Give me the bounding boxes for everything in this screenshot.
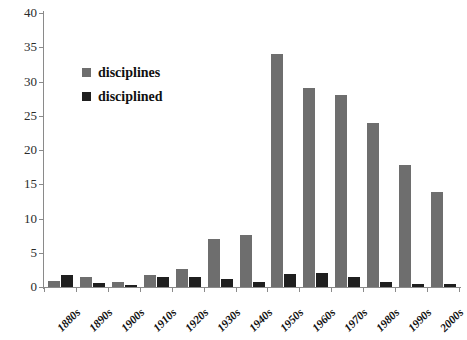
- x-tick-mark: [395, 287, 396, 292]
- bar: [431, 192, 443, 287]
- x-tick-label: 1960s: [310, 306, 338, 334]
- bar-chart: 0510152025303540 1880s1890s1900s1910s192…: [0, 0, 467, 340]
- x-tick-label: 1980s: [374, 306, 402, 334]
- y-tick-mark: [39, 253, 44, 254]
- bar: [208, 239, 220, 287]
- x-tick-mark: [172, 287, 173, 292]
- legend-item: disciplined: [82, 87, 163, 106]
- bar: [112, 282, 124, 287]
- bar-group: [111, 13, 139, 287]
- bar-group: [302, 13, 330, 287]
- bar: [221, 279, 233, 287]
- bar: [253, 282, 265, 287]
- bar: [240, 235, 252, 287]
- bar: [48, 281, 60, 287]
- x-axis-line: [43, 287, 461, 288]
- x-tick-label: 1890s: [86, 306, 114, 334]
- y-tick-mark: [39, 150, 44, 151]
- bar-group: [175, 13, 203, 287]
- bar: [335, 95, 347, 287]
- y-tick-mark: [39, 13, 44, 14]
- chart-legend: disciplinesdisciplined: [82, 63, 163, 111]
- bar: [303, 88, 315, 287]
- bar-group: [47, 13, 75, 287]
- bar: [93, 283, 105, 287]
- bar: [144, 275, 156, 287]
- y-tick-label: 10: [24, 211, 37, 227]
- y-tick-mark: [39, 219, 44, 220]
- x-tick-mark: [427, 287, 428, 292]
- x-tick-label: 1900s: [118, 306, 146, 334]
- y-tick-label: 25: [24, 108, 37, 124]
- x-tick-mark: [331, 287, 332, 292]
- bar: [316, 273, 328, 287]
- bar: [61, 275, 73, 287]
- x-tick-mark: [204, 287, 205, 292]
- x-tick-label: 1970s: [342, 306, 370, 334]
- legend-item: disciplines: [82, 63, 163, 82]
- y-tick-label: 40: [24, 5, 37, 21]
- bar-group: [143, 13, 171, 287]
- bar: [284, 274, 296, 287]
- bar: [444, 284, 456, 287]
- legend-swatch-icon: [82, 92, 91, 101]
- y-tick-mark: [39, 184, 44, 185]
- bar: [412, 284, 424, 287]
- x-tick-label: 2000s: [438, 306, 466, 334]
- x-tick-mark: [236, 287, 237, 292]
- bar: [367, 123, 379, 287]
- bar: [271, 54, 283, 287]
- bar-group: [270, 13, 298, 287]
- x-tick-mark: [267, 287, 268, 292]
- y-tick-mark: [39, 47, 44, 48]
- bar: [399, 165, 411, 287]
- x-tick-label: 1940s: [246, 306, 274, 334]
- y-tick-label: 5: [31, 245, 38, 261]
- bar: [380, 282, 392, 287]
- x-tick-label: 1880s: [55, 306, 83, 334]
- legend-swatch-icon: [82, 68, 91, 77]
- bar: [157, 277, 169, 287]
- bar: [80, 277, 92, 287]
- bar: [176, 269, 188, 287]
- y-tick-label: 0: [31, 279, 38, 295]
- bar: [125, 285, 137, 287]
- y-tick-label: 35: [24, 39, 37, 55]
- x-tick-mark: [459, 287, 460, 292]
- x-tick-label: 1990s: [406, 306, 434, 334]
- plot-area: 0510152025303540 1880s1890s1900s1910s192…: [44, 13, 459, 287]
- y-tick-mark: [39, 116, 44, 117]
- x-tick-label: 1920s: [182, 306, 210, 334]
- x-tick-mark: [44, 287, 45, 292]
- x-tick-mark: [363, 287, 364, 292]
- x-tick-label: 1950s: [278, 306, 306, 334]
- bar-group: [334, 13, 362, 287]
- x-tick-label: 1910s: [150, 306, 178, 334]
- y-tick-label: 20: [24, 142, 37, 158]
- y-tick-label: 15: [24, 176, 37, 192]
- y-tick-mark: [39, 82, 44, 83]
- bar-group: [239, 13, 267, 287]
- bar: [348, 277, 360, 287]
- bar-group: [79, 13, 107, 287]
- bar: [189, 277, 201, 287]
- bar-group: [366, 13, 394, 287]
- legend-label: disciplined: [98, 89, 163, 105]
- bar-group: [207, 13, 235, 287]
- legend-label: disciplines: [98, 65, 160, 81]
- x-tick-mark: [140, 287, 141, 292]
- bar-group: [430, 13, 458, 287]
- x-tick-mark: [76, 287, 77, 292]
- x-tick-mark: [299, 287, 300, 292]
- y-tick-label: 30: [24, 74, 37, 90]
- x-tick-label: 1930s: [214, 306, 242, 334]
- bar-group: [398, 13, 426, 287]
- x-tick-mark: [108, 287, 109, 292]
